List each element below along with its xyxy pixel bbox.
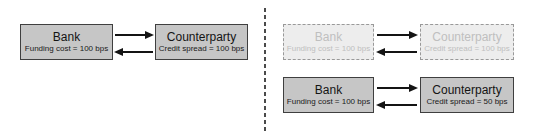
left-counterparty-box: Counterparty Credit spread = 100 bps (155, 24, 248, 60)
left-counterparty-title: Counterparty (167, 30, 236, 44)
left-bank-box: Bank Funding cost = 100 bps (20, 24, 113, 60)
right-faded-counterparty-box: Counterparty Credit spread = 100 bps (420, 24, 514, 60)
left-arrow-right-icon (115, 34, 146, 36)
panel-divider (264, 8, 266, 133)
left-counterparty-subtitle: Credit spread = 100 bps (159, 44, 245, 54)
right-solid-arrow-left-icon (384, 104, 417, 106)
right-faded-arrow-right-icon (377, 34, 410, 36)
left-arrow-left-icon (122, 51, 153, 53)
left-bank-subtitle: Funding cost = 100 bps (25, 44, 108, 54)
left-bank-title: Bank (53, 30, 80, 44)
right-solid-bank-title: Bank (315, 83, 342, 97)
right-solid-counterparty-subtitle: Credit spread = 50 bps (426, 97, 507, 107)
right-solid-arrow-right-icon (377, 87, 410, 89)
right-faded-bank-subtitle: Funding cost = 100 bps (287, 44, 370, 54)
right-solid-bank-box: Bank Funding cost = 100 bps (283, 77, 374, 113)
right-faded-counterparty-subtitle: Credit spread = 100 bps (424, 44, 510, 54)
right-solid-counterparty-box: Counterparty Credit spread = 50 bps (420, 77, 514, 113)
right-solid-counterparty-title: Counterparty (432, 83, 501, 97)
funding-cost-diagram: Bank Funding cost = 100 bps Counterparty… (0, 0, 534, 140)
right-solid-bank-subtitle: Funding cost = 100 bps (287, 97, 370, 107)
right-faded-counterparty-title: Counterparty (432, 30, 501, 44)
right-faded-bank-title: Bank (315, 30, 342, 44)
right-faded-bank-box: Bank Funding cost = 100 bps (283, 24, 374, 60)
right-faded-arrow-left-icon (384, 51, 417, 53)
